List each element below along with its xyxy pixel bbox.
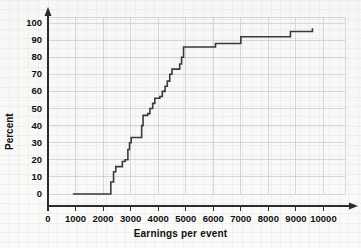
y-tick-label: 80 xyxy=(18,51,42,62)
chart-figure: 0102030405060708090100 01000200030004000… xyxy=(0,0,361,248)
y-tick-label: 10 xyxy=(18,171,42,182)
minor-gridlines xyxy=(0,0,361,248)
cdf-step-curve xyxy=(73,28,313,194)
y-tick-label: 100 xyxy=(18,17,42,28)
x-tick-label: 10000 xyxy=(306,213,340,224)
y-tick-label: 40 xyxy=(18,120,42,131)
y-axis-title: Percent xyxy=(4,113,15,150)
y-tick-label: 60 xyxy=(18,85,42,96)
y-tick-label: 0 xyxy=(18,188,42,199)
chart-canvas xyxy=(0,0,361,248)
x-axis-title: Earnings per event xyxy=(0,228,361,239)
y-tick-label: 50 xyxy=(18,103,42,114)
y-tick-label: 70 xyxy=(18,68,42,79)
y-tick-label: 90 xyxy=(18,34,42,45)
y-tick-label: 30 xyxy=(18,137,42,148)
y-tick-label: 20 xyxy=(18,154,42,165)
